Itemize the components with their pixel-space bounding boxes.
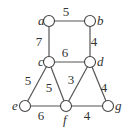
node-f	[61, 101, 72, 112]
node-b	[85, 16, 96, 27]
edge-weight-c-f: 5	[46, 80, 53, 95]
edge-weight-b-d: 4	[91, 34, 98, 49]
edge-weight-a-b: 5	[63, 4, 70, 19]
node-g	[103, 101, 114, 112]
node-label-c: c	[38, 54, 44, 69]
edge-weight-a-c: 7	[36, 34, 43, 49]
edge-weight-d-f: 3	[68, 72, 75, 87]
node-label-f: f	[63, 112, 69, 127]
edge-weight-e-f: 6	[38, 108, 45, 123]
node-label-a: a	[38, 13, 45, 28]
edge-weight-c-d: 6	[62, 45, 69, 60]
node-e	[20, 101, 31, 112]
node-a	[44, 16, 55, 27]
node-label-e: e	[12, 98, 18, 113]
edge-weight-f-g: 4	[84, 108, 91, 123]
edge-weight-c-e: 5	[25, 73, 32, 88]
node-c	[44, 57, 55, 68]
edge-weight-d-g: 4	[101, 80, 108, 95]
weighted-graph-diagram: 5746553464 abcdefg	[0, 0, 129, 133]
node-label-g: g	[115, 98, 122, 113]
node-label-b: b	[97, 13, 104, 28]
node-d	[85, 57, 96, 68]
node-label-d: d	[97, 54, 104, 69]
